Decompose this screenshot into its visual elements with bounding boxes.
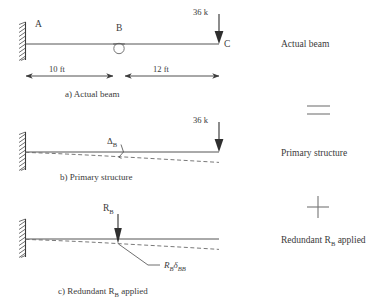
dimension-label-12ft: 12 ft	[153, 64, 169, 74]
fixed-support-c	[19, 219, 26, 258]
fixed-support-b	[19, 132, 26, 171]
load-label-b: 36 k	[193, 115, 209, 125]
dimension-label-10ft: 10 ft	[49, 64, 65, 74]
panel-primary-structure: ΔB 36 k b) Primary structure Primary str…	[19, 115, 347, 182]
deflected-shape-c	[26, 239, 220, 249]
panel-redundant-applied: RB RBδBB c) Redundant RB applied Redunda…	[19, 203, 366, 298]
caption-c: c) Redundant RB applied	[58, 286, 148, 298]
caption-b: b) Primary structure	[60, 172, 132, 182]
point-label-b: B	[116, 23, 122, 33]
deflection-leader-b	[119, 145, 124, 159]
point-label-c: C	[224, 39, 230, 49]
internal-hinge-b	[114, 43, 124, 53]
figure-canvas: A B C 36 k 10 ft 12 ft a) Actual beam Ac…	[0, 0, 384, 307]
deflection-term-leader	[119, 244, 149, 265]
load-label-a: 36 k	[193, 7, 209, 17]
side-label-actual-beam: Actual beam	[281, 39, 330, 49]
operator-equals	[307, 106, 330, 114]
fixed-support-a	[19, 22, 26, 61]
load-arrow-a	[215, 14, 224, 44]
side-label-primary-structure: Primary structure	[281, 148, 347, 158]
operator-plus	[307, 196, 329, 218]
point-label-a: A	[35, 19, 42, 29]
load-arrow-b	[215, 122, 224, 152]
redundant-force-label: RB	[103, 203, 114, 215]
deflection-term-label: RBδBB	[163, 260, 186, 272]
panel-actual-beam: A B C 36 k 10 ft 12 ft a) Actual beam Ac…	[19, 7, 330, 99]
caption-a: a) Actual beam	[65, 89, 119, 99]
deflection-label-b: ΔB	[107, 136, 118, 148]
side-label-redundant-applied: Redundant RB applied	[281, 235, 366, 247]
